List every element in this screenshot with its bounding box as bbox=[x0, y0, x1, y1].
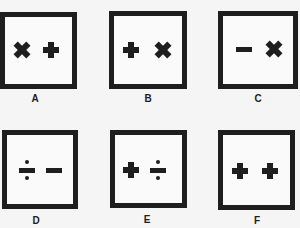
option-a-label: A bbox=[25, 94, 45, 104]
option-b-label: B bbox=[138, 94, 158, 104]
option-e-label: E bbox=[137, 215, 157, 225]
option-a-box[interactable] bbox=[0, 12, 77, 89]
option-c-label: C bbox=[248, 94, 268, 104]
option-b-box[interactable] bbox=[109, 11, 187, 89]
option-e-box[interactable] bbox=[110, 130, 187, 208]
option-d-box[interactable] bbox=[2, 130, 78, 209]
option-f-box[interactable] bbox=[218, 130, 295, 210]
option-d-label: D bbox=[26, 216, 46, 226]
option-f-label: F bbox=[247, 216, 267, 226]
option-c-box[interactable] bbox=[218, 11, 298, 89]
